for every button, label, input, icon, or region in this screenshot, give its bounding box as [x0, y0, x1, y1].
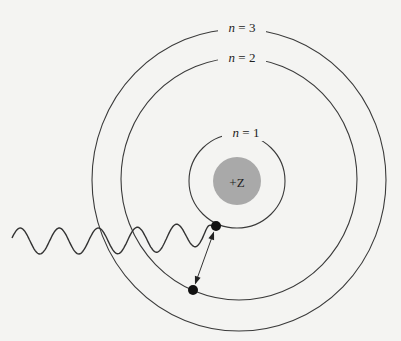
orbit-label-n3: n = 3: [229, 20, 256, 35]
quantum-number-value: = 1: [239, 125, 259, 140]
quantum-number-value: = 3: [235, 20, 255, 35]
nucleus-group: +Z: [213, 157, 261, 205]
transition-line: [195, 233, 213, 284]
nucleus-charge-label: +Z: [229, 175, 244, 190]
arrowhead-up-icon: [208, 232, 214, 241]
bohr-atom-diagram: n = 1n = 2n = 3 +Z: [0, 0, 401, 341]
electron-final: [188, 285, 198, 295]
electron-initial: [211, 221, 221, 231]
orbit-label-n2: n = 2: [229, 50, 256, 65]
photon-wave-icon: [12, 224, 214, 254]
transition-arrow: [195, 232, 214, 285]
arrowhead-down-icon: [195, 276, 201, 285]
orbit-label-n1: n = 1: [233, 125, 260, 140]
quantum-number-value: = 2: [235, 50, 255, 65]
